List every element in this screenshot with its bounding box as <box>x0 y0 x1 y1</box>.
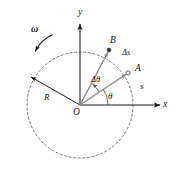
point-b-label: B <box>110 36 116 46</box>
omega-label: ω <box>31 24 38 34</box>
theta-label: θ <box>108 92 112 101</box>
radius-label: R <box>44 93 50 102</box>
point-b-marker <box>107 48 111 52</box>
circular-motion-diagram <box>0 0 176 176</box>
figure-container: y x O A B R ω θ Δθ s Δs <box>0 0 176 176</box>
x-axis-label: x <box>163 100 167 110</box>
delta-theta-arc <box>93 84 100 92</box>
radius-vector <box>31 77 80 105</box>
point-a-label: A <box>135 64 141 74</box>
point-a-marker <box>126 71 130 75</box>
origin-label: O <box>73 108 80 118</box>
arc-length-label: s <box>140 82 144 91</box>
counterclockwise-arrow-icon <box>36 35 53 51</box>
delta-theta-label: Δθ <box>91 75 100 84</box>
delta-s-label: Δs <box>122 48 130 57</box>
y-axis-label: y <box>78 8 82 18</box>
